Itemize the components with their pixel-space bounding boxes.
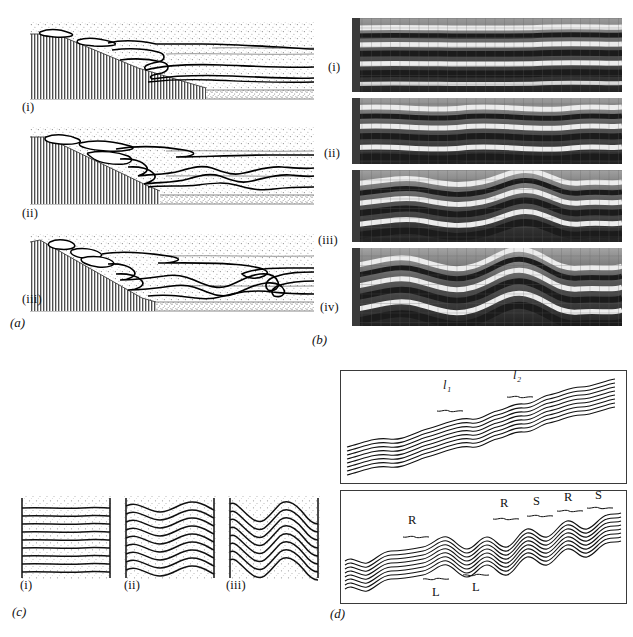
panel-b-label: (b) bbox=[312, 332, 327, 348]
panel-c-stage-2 bbox=[124, 496, 216, 580]
bracket-r-3 bbox=[557, 510, 583, 511]
fold-train-1 bbox=[347, 379, 615, 475]
panel-b-stage-1 bbox=[352, 18, 622, 92]
panel-d-annotation-l1: l₁ bbox=[443, 378, 451, 393]
panel-c bbox=[14, 492, 324, 587]
panel-a-stage-2-label: (ii) bbox=[22, 206, 38, 221]
panel-b-stage-4-label: (iv) bbox=[320, 300, 339, 315]
figure-plate: (i) (ii) (iii) (a) bbox=[0, 0, 633, 637]
panel-a-label: (a) bbox=[10, 315, 25, 331]
panel-b-stage-3-label: (iii) bbox=[318, 233, 338, 248]
panel-b-stage-2 bbox=[352, 98, 622, 164]
panel-b-stage-4 bbox=[352, 248, 622, 326]
panel-b bbox=[352, 18, 622, 336]
panel-d-box-2-svg bbox=[341, 491, 626, 603]
panel-d-annotation-l2: l₂ bbox=[513, 368, 521, 383]
panel-c-stage-3-label: (iii) bbox=[226, 578, 246, 593]
panel-c-stage-2-label: (ii) bbox=[124, 578, 140, 593]
fold-train-2 bbox=[345, 513, 621, 591]
bracket-r-2 bbox=[493, 518, 519, 519]
panel-d-label: (d) bbox=[330, 606, 345, 622]
panel-a-stage-3-label: (iii) bbox=[22, 292, 42, 307]
panel-a-stage-2 bbox=[30, 127, 314, 204]
panel-d-box-1 bbox=[340, 370, 627, 484]
bracket-l-2 bbox=[463, 574, 489, 575]
panel-a bbox=[16, 16, 316, 316]
bracket-s-2 bbox=[587, 507, 613, 508]
panel-d-annotation-s-2: S bbox=[595, 488, 602, 503]
panel-a-stage-1-label: (i) bbox=[22, 100, 34, 115]
panel-c-label: (c) bbox=[12, 604, 26, 620]
wavelength-bracket-l1 bbox=[437, 410, 463, 411]
bracket-r-1 bbox=[403, 536, 429, 537]
panel-c-svg bbox=[14, 492, 324, 587]
panel-d-annotation-r-1: R bbox=[408, 513, 417, 528]
panel-d-annotation-l-1: L bbox=[432, 585, 440, 600]
panel-d-box-1-svg bbox=[341, 371, 626, 483]
panel-c-stage-1-label: (i) bbox=[20, 578, 32, 593]
panel-b-stage-3 bbox=[352, 170, 622, 242]
panel-c-stage-1 bbox=[20, 496, 112, 580]
wavelength-bracket-l2 bbox=[507, 396, 533, 397]
panel-b-svg bbox=[352, 18, 622, 336]
panel-a-svg bbox=[16, 16, 316, 316]
bracket-l-1 bbox=[423, 578, 449, 579]
panel-c-stage-3 bbox=[228, 496, 320, 580]
panel-b-stage-1-label: (i) bbox=[328, 60, 340, 75]
panel-b-stage-2-label: (ii) bbox=[324, 146, 340, 161]
panel-d-annotation-r-3: R bbox=[564, 490, 573, 505]
bracket-s-1 bbox=[527, 515, 553, 516]
panel-a-stage-3 bbox=[30, 234, 314, 311]
panel-d-box-2 bbox=[340, 490, 627, 604]
panel-d-annotation-l-2: L bbox=[472, 580, 480, 595]
panel-d-annotation-r-2: R bbox=[500, 496, 509, 511]
panel-a-stage-1 bbox=[30, 22, 314, 99]
panel-d-annotation-s-1: S bbox=[533, 494, 540, 509]
